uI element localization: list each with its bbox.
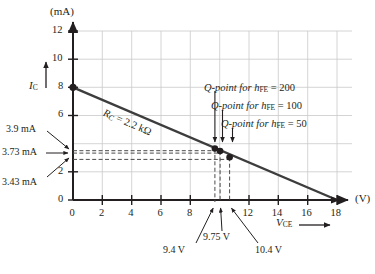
hfe-subscript-200: FE: [259, 85, 268, 94]
q-point-label-hfe-200: Q-point for hFE = 200: [204, 83, 295, 94]
x-tick-label-2: 2: [99, 208, 104, 219]
x-axis-name-label: VCE: [276, 217, 292, 229]
y-tick-label-2: 2: [58, 166, 63, 177]
y-axis-name-label: IC: [29, 80, 38, 92]
x-axis-name-subscript: CE: [283, 220, 293, 229]
hfe-value-50: = 50: [285, 118, 307, 129]
q-point-prefix-50: Q-point for: [221, 118, 271, 129]
voltage-annotation-10-4v: 10.4 V: [255, 245, 282, 255]
q-point-leader-arrows: [215, 91, 233, 142]
hfe-value-200: = 200: [268, 82, 295, 93]
y-axis-unit-label: (mA): [50, 6, 74, 17]
x-tick-label-16: 16: [301, 208, 312, 219]
load-line-y-intercept-marker: [69, 84, 76, 91]
hfe-value-100: = 100: [275, 100, 302, 111]
q-point-prefix-200: Q-point for: [204, 82, 254, 93]
current-dashed-lines: [73, 151, 230, 160]
load-line-chart: [0, 0, 375, 274]
x-tick-label-8: 8: [187, 208, 192, 219]
q-point-marker-hfe-100: [217, 148, 224, 155]
y-tick-label-6: 6: [58, 109, 63, 120]
q-point-prefix-100: Q-point for: [211, 100, 261, 111]
y-axis-name-subscript: C: [33, 83, 38, 92]
current-annotation-3-9ma: 3.9 mA: [6, 124, 36, 134]
x-tick-label-14: 14: [272, 208, 283, 219]
x-tick-label-18: 18: [331, 208, 342, 219]
hfe-subscript-50: FE: [276, 121, 285, 130]
figure-canvas: (mA) (V) IC VCE 12 10 8 6 2 0 0 2 4 6 8 …: [0, 0, 375, 274]
y-tick-label-10: 10: [52, 53, 63, 64]
voltage-annotation-9-75v: 9.75 V: [203, 232, 230, 242]
x-tick-label-6: 6: [158, 208, 163, 219]
y-tick-label-8: 8: [58, 81, 63, 92]
q-point-marker-hfe-50: [226, 154, 233, 161]
load-line-x-intercept-marker: [331, 196, 341, 203]
hfe-subscript-100: FE: [266, 103, 275, 112]
x-axis-unit-label: (V): [355, 193, 370, 204]
voltage-annotation-9-4v: 9.4 V: [163, 245, 185, 255]
current-annotation-3-43ma: 3.43 mA: [2, 177, 37, 187]
x-tick-label-0: 0: [70, 208, 75, 219]
x-tick-label-12: 12: [243, 208, 254, 219]
y-tick-label-12: 12: [52, 25, 63, 36]
y-tick-label-0: 0: [58, 194, 63, 205]
q-point-label-hfe-50: Q-point for hFE = 50: [221, 119, 307, 130]
q-point-label-hfe-100: Q-point for hFE = 100: [211, 101, 302, 112]
current-annotation-3-73ma: 3.73 mA: [2, 147, 37, 157]
x-tick-label-4: 4: [128, 208, 133, 219]
